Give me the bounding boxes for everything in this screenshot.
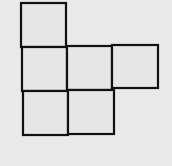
cells-group	[21, 3, 158, 135]
square-middle-center	[67, 46, 112, 90]
square-net-diagram	[0, 0, 172, 166]
square-bottom-center	[68, 90, 114, 134]
square-bottom-left	[23, 91, 68, 135]
square-middle-left	[22, 47, 67, 91]
square-middle-right	[112, 45, 158, 88]
square-top-left	[21, 3, 66, 47]
